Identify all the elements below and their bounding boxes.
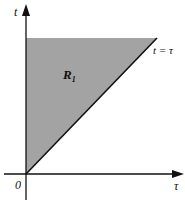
line-label: t = τ	[153, 44, 174, 56]
x-axis-arrow-icon	[172, 170, 184, 178]
x-axis-label: τ	[174, 179, 179, 193]
y-axis-label: t	[14, 5, 18, 19]
y-axis-arrow-icon	[22, 4, 30, 16]
region-diagram: t τ 0 t = τ R1	[0, 0, 185, 205]
origin-label: 0	[15, 178, 21, 192]
